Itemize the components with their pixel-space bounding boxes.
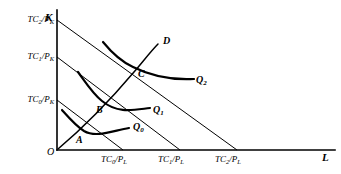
y-tick-label-0: TC0/PK <box>27 95 54 104</box>
y-tick-label-1: TC1/PK <box>27 52 54 61</box>
point-label-c: C <box>138 69 145 79</box>
point-label-b: B <box>96 105 103 115</box>
isoquant-label-q0: Q0 <box>133 122 144 132</box>
origin-label: O <box>47 147 54 157</box>
x-tick-label-2: TC2/PL <box>215 155 241 164</box>
isoquant-label-q1: Q1 <box>153 105 164 115</box>
point-label-a: A <box>76 135 83 145</box>
isoquant-isocost-figure: K L O TC0/PKTC1/PKTC2/PK TC0/PLTC1/PLTC2… <box>0 0 341 174</box>
isoquant-curves-group <box>62 42 194 134</box>
y-tick-label-2: TC2/PK <box>27 15 54 24</box>
l-axis-label: L <box>322 152 329 163</box>
isoquant-label-q2: Q2 <box>196 75 207 85</box>
isoquant-curve-q2 <box>103 42 194 79</box>
x-tick-label-1: TC1/PL <box>158 155 184 164</box>
x-tick-label-0: TC0/PL <box>101 155 127 164</box>
expansion-path-label: D <box>163 36 170 46</box>
